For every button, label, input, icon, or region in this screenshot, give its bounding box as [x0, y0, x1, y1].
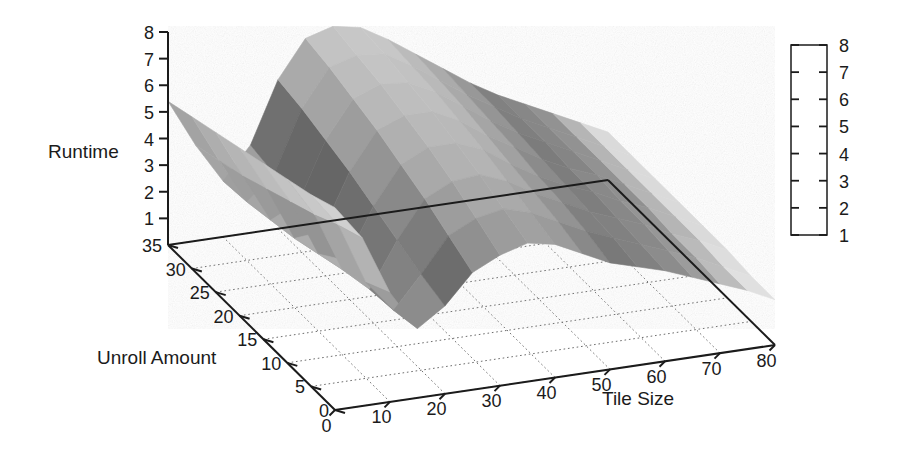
x-tick-label: 20 — [426, 399, 446, 419]
figure-canvas: 010203040506070800510152025303512345678 … — [0, 0, 901, 469]
colorbar-tick-label: 1 — [839, 226, 849, 246]
colorbar-tick-label: 3 — [839, 172, 849, 192]
z-tick-label: 8 — [144, 23, 154, 43]
z-axis-label: Runtime — [48, 141, 119, 162]
colorbar-tick-label: 2 — [839, 199, 849, 219]
grid-line-y — [263, 274, 703, 339]
colorbar-gradient — [791, 45, 827, 235]
x-tick-label: 10 — [371, 407, 391, 427]
y-tick-mark — [335, 410, 345, 413]
colorbar-tick-labels: 12345678 — [839, 36, 849, 246]
grid-line-y — [311, 321, 751, 386]
surface-plot-svg: 010203040506070800510152025303512345678 … — [0, 0, 901, 469]
y-tick-label: 20 — [214, 307, 234, 327]
colorbar: 12345678 — [791, 36, 849, 246]
x-tick-label: 80 — [756, 351, 776, 371]
x-tick-label: 40 — [536, 383, 556, 403]
colorbar-tick-label: 6 — [839, 90, 849, 110]
z-tick-label: 3 — [144, 156, 154, 176]
y-tick-label: 10 — [261, 354, 281, 374]
x-tick-label: 60 — [646, 367, 666, 387]
surface-mesh — [168, 26, 775, 328]
y-tick-label: 30 — [166, 260, 186, 280]
x-tick-label: 30 — [481, 391, 501, 411]
colorbar-tick-label: 8 — [839, 36, 849, 56]
colorbar-tick-label: 4 — [839, 145, 849, 165]
x-axis-label: Tile Size — [602, 388, 674, 409]
colorbar-ticks — [791, 45, 827, 235]
y-axis-label: Unroll Amount — [97, 347, 217, 368]
z-tick-label: 1 — [144, 209, 154, 229]
y-tick-label: 35 — [142, 236, 162, 256]
colorbar-tick-label: 7 — [839, 63, 849, 83]
y-tick-label: 0 — [319, 401, 329, 421]
y-tick-label: 25 — [190, 283, 210, 303]
z-tick-label: 5 — [144, 103, 154, 123]
colorbar-tick-label: 5 — [839, 117, 849, 137]
y-tick-label: 15 — [237, 330, 257, 350]
y-tick-label: 5 — [295, 377, 305, 397]
z-tick-label: 7 — [144, 50, 154, 70]
z-tick-label: 4 — [144, 130, 154, 150]
z-tick-label: 2 — [144, 183, 154, 203]
x-tick-label: 70 — [701, 359, 721, 379]
z-tick-label: 6 — [144, 76, 154, 96]
